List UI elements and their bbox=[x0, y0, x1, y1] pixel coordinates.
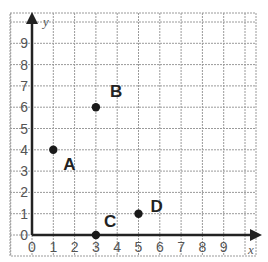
y-tick-label: 0 bbox=[20, 227, 28, 243]
y-tick-label: 3 bbox=[20, 163, 28, 179]
point-a bbox=[49, 146, 57, 154]
y-tick-label: 7 bbox=[20, 78, 28, 94]
y-tick-label: 5 bbox=[20, 121, 28, 137]
tick-labels: 01234567890123456789 bbox=[20, 35, 228, 255]
grid-lines bbox=[10, 13, 256, 256]
x-tick-label: 6 bbox=[156, 239, 164, 255]
y-tick-label: 4 bbox=[20, 142, 28, 158]
point-label-c: C bbox=[104, 212, 116, 231]
point-label-a: A bbox=[63, 155, 75, 174]
x-tick-label: 5 bbox=[135, 239, 143, 255]
y-axis-arrow-icon bbox=[26, 12, 38, 24]
y-tick-label: 6 bbox=[20, 99, 28, 115]
x-tick-label: 1 bbox=[49, 239, 57, 255]
point-label-d: D bbox=[151, 197, 163, 216]
data-points: ABCD bbox=[49, 82, 163, 239]
x-tick-label: 7 bbox=[177, 239, 185, 255]
point-d bbox=[134, 210, 142, 218]
y-tick-label: 1 bbox=[20, 206, 28, 222]
y-axis-label: y bbox=[41, 14, 49, 29]
y-tick-label: 9 bbox=[20, 35, 28, 51]
x-tick-label: 4 bbox=[113, 239, 121, 255]
coordinate-grid: x y 01234567890123456789 ABCD bbox=[0, 0, 268, 262]
x-tick-label: 8 bbox=[199, 239, 207, 255]
y-tick-label: 8 bbox=[20, 57, 28, 73]
y-tick-label: 2 bbox=[20, 184, 28, 200]
point-label-b: B bbox=[110, 82, 122, 101]
point-b bbox=[92, 103, 100, 111]
x-tick-label: 0 bbox=[28, 239, 36, 255]
x-tick-label: 2 bbox=[71, 239, 79, 255]
x-tick-label: 9 bbox=[220, 239, 228, 255]
grid-border bbox=[10, 13, 256, 256]
axes: x y bbox=[26, 12, 262, 257]
x-axis-label: x bbox=[247, 242, 254, 257]
x-tick-label: 3 bbox=[92, 239, 100, 255]
point-c bbox=[92, 231, 100, 239]
